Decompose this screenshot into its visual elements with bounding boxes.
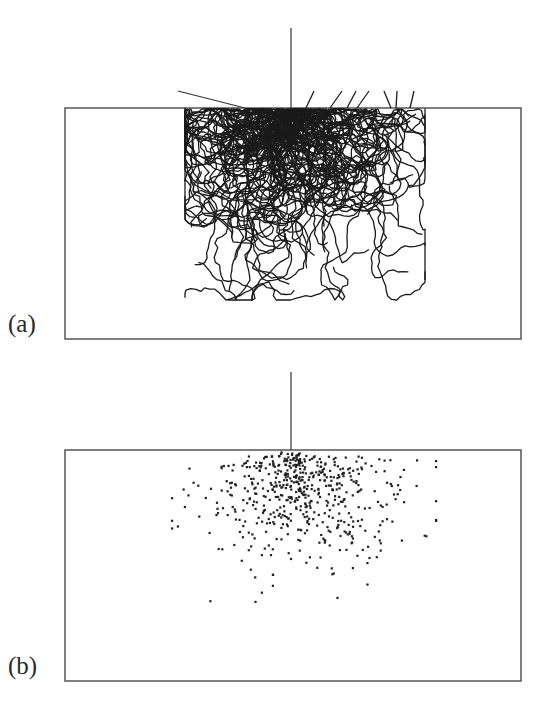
end-point bbox=[299, 529, 301, 531]
end-point bbox=[416, 459, 418, 461]
end-point bbox=[171, 497, 173, 499]
end-point bbox=[244, 520, 246, 522]
end-point bbox=[306, 529, 308, 531]
end-point bbox=[342, 475, 344, 477]
end-point bbox=[352, 567, 354, 569]
end-point bbox=[274, 466, 276, 468]
end-point bbox=[304, 516, 306, 518]
end-point bbox=[339, 468, 341, 470]
end-point bbox=[274, 516, 276, 518]
end-point bbox=[345, 457, 347, 459]
end-point bbox=[367, 546, 369, 548]
panel-b-scatter: (b) bbox=[0, 360, 545, 705]
end-point bbox=[305, 506, 307, 508]
end-point bbox=[248, 455, 250, 457]
end-point bbox=[288, 552, 290, 554]
end-point bbox=[303, 468, 305, 470]
end-point bbox=[285, 476, 287, 478]
escaped-path bbox=[357, 91, 369, 108]
end-point bbox=[320, 556, 322, 558]
end-point bbox=[261, 554, 263, 556]
end-point bbox=[286, 523, 288, 525]
end-point bbox=[344, 505, 346, 507]
end-point bbox=[222, 507, 224, 509]
end-point bbox=[337, 526, 339, 528]
end-point bbox=[330, 476, 332, 478]
end-point bbox=[244, 487, 246, 489]
end-point bbox=[232, 506, 234, 508]
end-point bbox=[350, 479, 352, 481]
trajectory-plot bbox=[0, 0, 545, 350]
end-point bbox=[305, 562, 307, 564]
end-point bbox=[317, 501, 319, 503]
end-point bbox=[330, 480, 332, 482]
scatter-plot bbox=[0, 360, 545, 705]
end-point bbox=[221, 490, 223, 492]
end-point bbox=[298, 464, 300, 466]
end-point bbox=[266, 522, 268, 524]
escaped-path bbox=[384, 91, 391, 108]
end-point bbox=[328, 493, 330, 495]
end-point bbox=[291, 454, 293, 456]
end-point bbox=[287, 453, 289, 455]
end-point bbox=[280, 516, 282, 518]
end-point bbox=[309, 505, 311, 507]
end-point bbox=[250, 545, 252, 547]
end-point bbox=[256, 501, 258, 503]
end-point bbox=[316, 525, 318, 527]
end-point bbox=[318, 514, 320, 516]
end-point bbox=[334, 457, 336, 459]
end-point bbox=[364, 507, 366, 509]
end-point bbox=[338, 496, 340, 498]
end-point bbox=[352, 470, 354, 472]
end-point bbox=[246, 460, 248, 462]
end-point bbox=[290, 513, 292, 515]
end-point bbox=[333, 476, 335, 478]
end-point bbox=[329, 509, 331, 511]
end-point bbox=[253, 501, 255, 503]
end-point bbox=[399, 476, 401, 478]
end-point bbox=[229, 482, 231, 484]
end-point bbox=[287, 473, 289, 475]
end-point bbox=[324, 479, 326, 481]
end-point bbox=[320, 466, 322, 468]
end-point bbox=[342, 468, 344, 470]
end-point bbox=[401, 540, 403, 542]
end-point bbox=[300, 505, 302, 507]
end-point bbox=[311, 488, 313, 490]
end-point bbox=[210, 488, 212, 490]
end-point bbox=[287, 456, 289, 458]
end-point bbox=[349, 467, 351, 469]
end-point bbox=[356, 555, 358, 557]
end-point bbox=[221, 466, 223, 468]
end-point bbox=[254, 492, 256, 494]
end-point bbox=[297, 499, 299, 501]
end-point bbox=[306, 488, 308, 490]
end-point bbox=[255, 462, 257, 464]
end-point bbox=[332, 504, 334, 506]
end-point bbox=[197, 485, 199, 487]
end-point bbox=[290, 520, 292, 522]
end-point bbox=[273, 486, 275, 488]
end-point bbox=[215, 514, 217, 516]
end-point bbox=[252, 478, 254, 480]
end-point bbox=[295, 508, 297, 510]
end-point bbox=[300, 480, 302, 482]
end-point bbox=[312, 518, 314, 520]
end-point bbox=[272, 585, 274, 587]
end-point bbox=[365, 462, 367, 464]
end-point bbox=[300, 490, 302, 492]
end-point bbox=[351, 542, 353, 544]
end-point bbox=[320, 461, 322, 463]
end-point bbox=[235, 518, 237, 520]
end-point bbox=[249, 498, 251, 500]
end-point bbox=[389, 459, 391, 461]
end-point bbox=[359, 525, 361, 527]
end-point bbox=[277, 473, 279, 475]
end-point bbox=[306, 515, 308, 517]
end-point bbox=[295, 477, 297, 479]
end-point bbox=[361, 457, 363, 459]
end-point bbox=[184, 506, 186, 508]
end-point bbox=[231, 494, 233, 496]
end-point bbox=[297, 529, 299, 531]
